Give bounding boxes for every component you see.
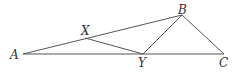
geometry-diagram: A X B Y C — [0, 0, 241, 73]
segment-xy — [85, 38, 143, 54]
point-label-c: C — [219, 56, 228, 70]
segment-by — [143, 15, 182, 54]
point-label-b: B — [177, 3, 187, 17]
point-label-a: A — [9, 48, 19, 62]
point-label-x: X — [80, 24, 90, 38]
segment-ab — [23, 15, 182, 54]
segment-bc — [182, 15, 224, 54]
point-label-y: Y — [138, 56, 147, 70]
